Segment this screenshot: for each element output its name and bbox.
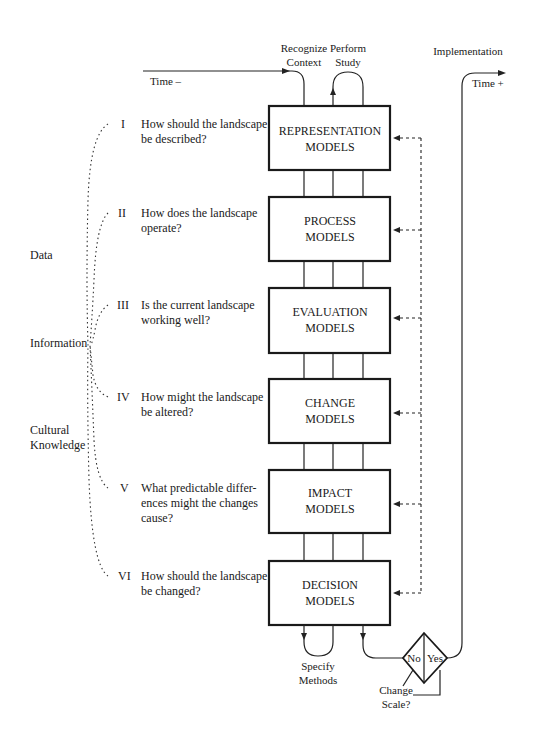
question-vi: VI How should the landscape be changed? [118,569,267,598]
perform-study-arrow-icon [330,88,336,95]
time-plus-label: Time + [472,77,504,89]
question-numeral: IV [117,390,130,404]
model-box-evaluation: EVALUATION MODELS [269,288,390,353]
perform-study-label-line1: Perform [330,42,366,54]
box-label-line2: MODELS [305,140,354,154]
specify-methods-arrow-icon [301,633,307,640]
question-text-line1: What predictable differ- [141,481,256,495]
question-text-line2: be described? [141,132,207,146]
model-box-impact: IMPACT MODELS [269,470,390,533]
question-text-line2: be changed? [141,584,201,598]
information-label: Information [30,336,87,350]
box-label-line1: REPRESENTATION [279,124,382,138]
recognize-context-label-line1: Recognize [281,42,328,54]
question-text-line2: be altered? [141,405,193,419]
model-box-change: CHANGE MODELS [269,379,390,443]
question-numeral: I [121,117,125,131]
question-text-line2: operate? [141,221,182,235]
question-iv: IV How might the landscape be altered? [117,390,263,419]
model-box-process: PROCESS MODELS [269,197,390,261]
question-text-line2: ences might the changes [141,496,258,510]
perform-study-label-line2: Study [335,56,361,68]
box-label-line2: MODELS [305,230,354,244]
question-text-line1: Is the current landscape [141,298,255,312]
box-label-line1: IMPACT [308,486,353,500]
box-label-line2: MODELS [305,594,354,608]
perform-study-loop [333,72,363,106]
question-text-line3: cause? [141,511,173,525]
question-numeral: V [120,481,129,495]
cultural-knowledge-label-line1: Cultural [30,423,70,437]
cultural-knowledge-label-line2: Knowledge [30,438,85,452]
decision-yes-label: Yes [427,652,443,664]
question-text-line1: How should the landscape [141,569,267,583]
box-label-line1: DECISION [302,578,358,592]
box-label-line2: MODELS [305,321,354,335]
landscape-planning-framework-diagram: Recognize Context Perform Study Implemen… [0,0,548,743]
data-label: Data [30,248,53,262]
recognize-context-label-line2: Context [287,56,322,68]
box-label-line2: MODELS [305,412,354,426]
change-scale-label-line2: Scale? [382,698,411,710]
specify-methods-loop [304,625,333,656]
dotted-bracket-curves [87,124,108,576]
time-minus-label: Time – [150,75,182,87]
question-numeral: VI [118,569,131,583]
model-box-decision: DECISION MODELS [269,561,390,625]
question-numeral: III [117,298,129,312]
question-text-line1: How does the landscape [141,206,257,220]
box-label-line2: MODELS [305,502,354,516]
specify-methods-label-line1: Specify [301,660,335,672]
no-return-arrow-icon [360,633,366,640]
change-scale-label-line1: Change [379,684,413,696]
box-label-line1: CHANGE [305,396,355,410]
question-numeral: II [118,206,126,220]
feedback-dashed-lines [393,135,421,596]
decision-no-label: No [407,652,421,664]
no-return-line [363,625,403,658]
question-ii: II How does the landscape operate? [118,206,257,235]
box-label-line1: PROCESS [304,214,356,228]
model-box-representation: REPRESENTATION MODELS [269,106,390,170]
specify-methods-label-line2: Methods [299,674,338,686]
implementation-line [447,73,500,658]
question-text-line2: working well? [141,313,210,327]
question-v: V What predictable differ- ences might t… [120,481,258,525]
box-label-line1: EVALUATION [292,305,367,319]
question-iii: III Is the current landscape working wel… [117,298,255,327]
question-text-line1: How should the landscape [141,117,267,131]
question-i: I How should the landscape be described? [121,117,267,146]
implementation-arrow-icon [498,70,506,76]
implementation-label: Implementation [433,45,503,57]
question-text-line1: How might the landscape [141,390,263,404]
time-arrow-icon [282,68,290,74]
